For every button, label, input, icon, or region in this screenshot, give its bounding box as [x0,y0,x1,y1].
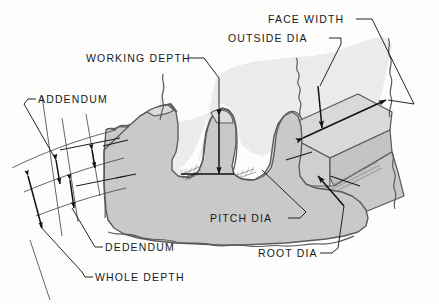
label-face-width: FACE WIDTH [268,13,344,25]
leader-addendum [24,99,56,160]
label-root-dia: ROOT DIA [258,247,318,259]
label-dedendum: DEDENDUM [105,241,175,253]
label-pitch-dia: PITCH DIA [210,212,272,224]
gear-diagram-svg: FACE WIDTH OUTSIDE DIA WORKING DEPTH ADD… [0,0,439,304]
leader-whole-depth [40,226,93,277]
label-whole-depth: WHOLE DEPTH [95,271,185,283]
whole-depth-dimension-arrow [28,176,42,228]
gear-terminology-figure: FACE WIDTH OUTSIDE DIA WORKING DEPTH ADD… [0,0,439,304]
label-outside-dia: OUTSIDE DIA [228,32,308,44]
label-working-depth: WORKING DEPTH [86,52,191,64]
addendum-dimension-arrow [56,160,60,184]
dimension-arrows-left [28,150,95,228]
label-addendum: ADDENDUM [38,93,108,105]
